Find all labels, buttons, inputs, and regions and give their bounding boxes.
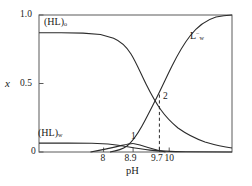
annotation-point-2: 2 — [163, 92, 168, 102]
y-tick-label-0-5: 0.5 — [20, 79, 32, 89]
curve-label-hl-aqueous-text: (HL) — [38, 127, 58, 138]
x-tick-label-8-9: 8.9 — [125, 154, 137, 164]
curve-label-l-anion-subscript: w — [200, 34, 204, 41]
curve-label-hl-aqueous: (HL)w — [38, 128, 62, 139]
x-tick-label-9-7: 9.7 — [151, 154, 163, 164]
curve-label-hl-organic-text: (HL) — [44, 16, 64, 27]
curve-l-anion-aqueous — [110, 15, 232, 152]
y-tick-label-0: 0 — [31, 147, 36, 157]
x-tick-label-10: 10 — [164, 154, 174, 164]
x-axis-title: pH — [126, 166, 139, 177]
y-axis-title: x — [5, 78, 10, 89]
y-tick-label-1: 1.0 — [20, 10, 32, 20]
curve-label-hl-aqueous-subscript: w — [58, 131, 62, 138]
curve-label-hl-organic: (HL)o — [44, 17, 67, 28]
curve-label-l-anion: L−w — [190, 31, 204, 42]
curve-label-hl-organic-subscript: o — [64, 20, 67, 27]
curve-branch-falling-point-1 — [133, 144, 165, 153]
x-tick-label-8: 8 — [101, 154, 106, 164]
chart-figure: 1.0 0.5 0 x 8 8.9 9.7 10 pH (HL)o (HL)w … — [0, 0, 252, 186]
annotation-point-1: 1 — [131, 132, 136, 142]
